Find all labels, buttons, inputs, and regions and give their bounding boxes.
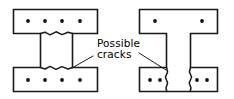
rebar-dot: [148, 78, 152, 82]
beam-diagram-canvas: Possible cracks: [0, 0, 234, 99]
rebar-dot: [43, 78, 47, 82]
rebar-dot: [78, 78, 82, 82]
rebar-dot: [200, 19, 204, 23]
rebar-dot: [60, 78, 64, 82]
annotation-label-line2: cracks: [97, 48, 131, 60]
rebar-dot: [60, 19, 64, 23]
rebar-dot: [158, 78, 162, 82]
rebar-dot: [195, 78, 199, 82]
rebar-dot: [205, 78, 209, 82]
annotation-text-group: Possible cracks: [97, 37, 140, 60]
rebar-dot: [26, 78, 30, 82]
left-beam-group: [14, 10, 98, 92]
left-beam-outline: [14, 10, 98, 92]
rebar-dot: [26, 19, 30, 23]
right-beam-group: [140, 10, 218, 92]
rebar-dot: [153, 19, 157, 23]
rebar-dot: [43, 19, 47, 23]
technical-figure: Possible cracks: [0, 0, 234, 99]
rebar-dot: [78, 19, 82, 23]
leader-to-left-beam: [72, 56, 93, 68]
